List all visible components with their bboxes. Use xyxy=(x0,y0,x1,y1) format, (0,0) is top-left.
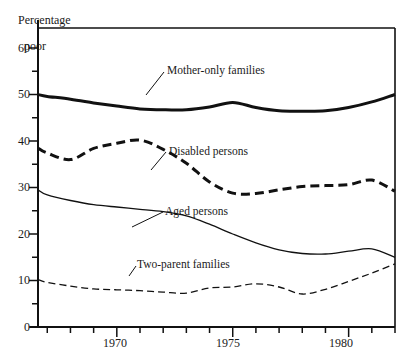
axis-ticks xyxy=(29,48,395,337)
series-line-two-parent-families xyxy=(38,264,395,294)
series-line-disabled-persons xyxy=(38,140,395,194)
series-line-mother-only-families xyxy=(38,95,395,112)
chart-figure: Percentage poor 60 50 40 30 20 10 0 1970… xyxy=(0,0,409,356)
plot-area xyxy=(0,0,409,356)
axis-frame xyxy=(30,20,395,327)
leader-lines xyxy=(129,72,166,276)
data-series xyxy=(38,95,395,295)
series-line-aged-persons xyxy=(38,190,395,257)
